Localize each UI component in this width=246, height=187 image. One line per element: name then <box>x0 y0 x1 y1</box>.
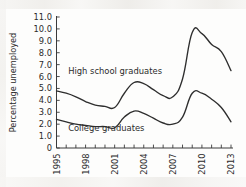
y-tick-label: 0 <box>47 143 52 153</box>
y-tick-label: 2.0 <box>39 119 52 129</box>
y-axis: 11.010.09.08.07.06.05.04.03.02.01.00 <box>34 12 60 153</box>
y-axis-title-text: Percentage unemployed <box>8 33 18 133</box>
y-tick-label: 9.0 <box>39 36 52 46</box>
y-tick-label: 5.0 <box>39 83 52 93</box>
y-tick-label: 6.0 <box>39 72 52 82</box>
x-axis: 1995199820012004200720102013 <box>52 145 237 175</box>
y-tick-label: 8.0 <box>39 48 52 58</box>
x-tick-label: 2010 <box>197 154 207 175</box>
chart-figure: 11.010.09.08.07.06.05.04.03.02.01.00 199… <box>0 0 246 187</box>
y-tick-label: 4.0 <box>39 95 52 105</box>
y-tick-label: 1.0 <box>39 131 52 141</box>
x-tick-label: 1998 <box>81 154 91 175</box>
series-label-college-graduates: College graduates <box>68 123 144 133</box>
y-tick-label: 7.0 <box>39 60 52 70</box>
y-tick-label: 3.0 <box>39 107 52 117</box>
y-axis-title: Percentage unemployed <box>8 33 18 133</box>
data-series-group <box>57 28 232 129</box>
x-tick-label: 1995 <box>52 154 62 175</box>
x-tick-label: 2013 <box>226 154 236 175</box>
y-tick-label: 11.0 <box>34 12 52 22</box>
series-label-high-school-graduates: High school graduates <box>68 66 162 76</box>
y-tick-label: 10.0 <box>34 24 52 34</box>
x-tick-label: 2007 <box>168 154 178 175</box>
line-chart: 11.010.09.08.07.06.05.04.03.02.01.00 199… <box>0 0 246 187</box>
x-tick-label: 2004 <box>139 154 149 175</box>
x-tick-label: 2001 <box>110 154 120 175</box>
